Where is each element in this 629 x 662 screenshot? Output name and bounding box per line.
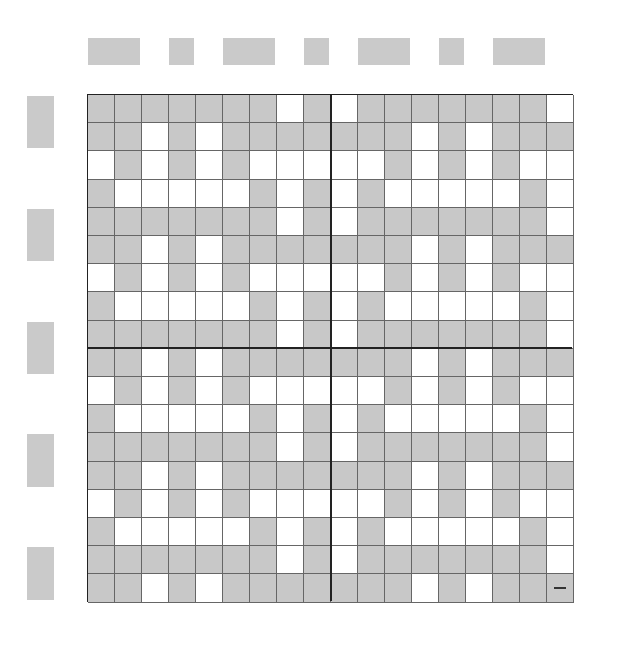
grid-cell-r12-c16 bbox=[142, 264, 169, 292]
grid-cell-r10-c13 bbox=[223, 321, 250, 349]
grid-cell-r7-c5 bbox=[439, 405, 466, 433]
grid-cell-r3-c12 bbox=[250, 518, 277, 546]
grid-cell-r13-c7 bbox=[385, 236, 412, 264]
grid-cell-r13-c15 bbox=[169, 236, 196, 264]
grid-cell-r2-c8 bbox=[358, 546, 385, 574]
grid-cell-r4-c9 bbox=[331, 490, 358, 518]
grid-cell-r8-c4 bbox=[466, 377, 493, 405]
grid-cell-r14-c2 bbox=[520, 208, 547, 236]
grid-cell-r14-c3 bbox=[493, 208, 520, 236]
grid-cell-r15-c11 bbox=[277, 180, 304, 208]
grid-cell-r6-c3 bbox=[493, 433, 520, 461]
grid-cell-r14-c9 bbox=[331, 208, 358, 236]
grid-cell-r4-c4 bbox=[466, 490, 493, 518]
grid-cell-r4-c5 bbox=[439, 490, 466, 518]
grid-cell-r13-c16 bbox=[142, 236, 169, 264]
grid-cell-r10-c4 bbox=[466, 321, 493, 349]
grid-cell-r7-c18 bbox=[88, 405, 115, 433]
grid-cell-r8-c13 bbox=[223, 377, 250, 405]
column-group-B bbox=[546, 38, 573, 65]
grid-cell-r11-c5 bbox=[439, 292, 466, 320]
grid-cell-r9-c5 bbox=[439, 349, 466, 377]
grid-cell-r15-c5 bbox=[439, 180, 466, 208]
grid-cell-r8-c15 bbox=[169, 377, 196, 405]
row-group-A bbox=[27, 235, 54, 263]
grid-cell-r5-c14 bbox=[196, 462, 223, 490]
grid-cell-r16-c16 bbox=[142, 151, 169, 179]
grid-cell-r18-c11 bbox=[277, 95, 304, 123]
grid-cell-r1-c12 bbox=[250, 574, 277, 602]
row-group-A bbox=[27, 432, 54, 460]
column-group-A bbox=[357, 38, 384, 65]
grid-cell-r17-c16 bbox=[142, 123, 169, 151]
grid-cell-r14-c4 bbox=[466, 208, 493, 236]
grid-cell-r14-c17 bbox=[115, 208, 142, 236]
grid-cell-r5-c16 bbox=[142, 462, 169, 490]
grid-cell-r6-c6 bbox=[412, 433, 439, 461]
grid-cell-r11-c12 bbox=[250, 292, 277, 320]
grid-cell-r1-c5 bbox=[439, 574, 466, 602]
grid-cell-r12-c7 bbox=[385, 264, 412, 292]
grid-cell-r18-c7 bbox=[385, 95, 412, 123]
grid-cell-r13-c5 bbox=[439, 236, 466, 264]
grid-cell-r15-c15 bbox=[169, 180, 196, 208]
grid-cell-r1-c10 bbox=[304, 574, 331, 602]
grid-cell-r1-c14 bbox=[196, 574, 223, 602]
row-group-B bbox=[27, 489, 54, 517]
grid-cell-r9-c4 bbox=[466, 349, 493, 377]
grid-cell-r17-c6 bbox=[412, 123, 439, 151]
grid-cell-r8-c5 bbox=[439, 377, 466, 405]
grid-cell-r8-c17 bbox=[115, 377, 142, 405]
grid-cell-r18-c3 bbox=[493, 95, 520, 123]
grid-cell-r3-c15 bbox=[169, 518, 196, 546]
grid-cell-r5-c18 bbox=[88, 462, 115, 490]
grid-cell-r15-c3 bbox=[493, 180, 520, 208]
grid-cell-r4-c13 bbox=[223, 490, 250, 518]
grid-cell-r8-c12 bbox=[250, 377, 277, 405]
grid-cell-r2-c17 bbox=[115, 546, 142, 574]
grid-cell-r5-c12 bbox=[250, 462, 277, 490]
grid-cell-r14-c15 bbox=[169, 208, 196, 236]
grid-cell-r17-c2 bbox=[520, 123, 547, 151]
grid-cell-r12-c1 bbox=[547, 264, 574, 292]
grid-cell-r2-c4 bbox=[466, 546, 493, 574]
grid-cell-r3-c13 bbox=[223, 518, 250, 546]
grid-cell-r17-c13 bbox=[223, 123, 250, 151]
grid-cell-r6-c9 bbox=[331, 433, 358, 461]
grid-cell-r15-c9 bbox=[331, 180, 358, 208]
grid-cell-r10-c9 bbox=[331, 321, 358, 349]
grid-cell-r7-c16 bbox=[142, 405, 169, 433]
grid-cell-r6-c16 bbox=[142, 433, 169, 461]
grid-cell-r16-c4 bbox=[466, 151, 493, 179]
row-group-B bbox=[27, 404, 54, 432]
grid-cell-r17-c15 bbox=[169, 123, 196, 151]
grid-cell-r4-c15 bbox=[169, 490, 196, 518]
grid-cell-r15-c4 bbox=[466, 180, 493, 208]
grid-cell-r11-c3 bbox=[493, 292, 520, 320]
row-group-A bbox=[27, 94, 54, 122]
grid-cell-r2-c18 bbox=[88, 546, 115, 574]
pattern-grid bbox=[87, 94, 573, 602]
grid-cell-r1-c17 bbox=[115, 574, 142, 602]
grid-cell-r16-c17 bbox=[115, 151, 142, 179]
row-group-A bbox=[27, 320, 54, 348]
grid-cell-r5-c4 bbox=[466, 462, 493, 490]
grid-cell-r13-c6 bbox=[412, 236, 439, 264]
dash-mark-icon bbox=[554, 587, 566, 589]
grid-cell-r1-c4 bbox=[466, 574, 493, 602]
grid-cell-r10-c11 bbox=[277, 321, 304, 349]
grid-cell-r9-c1 bbox=[547, 349, 574, 377]
grid-cell-r7-c1 bbox=[547, 405, 574, 433]
grid-cell-r11-c17 bbox=[115, 292, 142, 320]
grid-cell-r9-c8 bbox=[358, 349, 385, 377]
grid-cell-r15-c18 bbox=[88, 180, 115, 208]
grid-cell-r16-c14 bbox=[196, 151, 223, 179]
grid-cell-r18-c2 bbox=[520, 95, 547, 123]
grid-cell-r10-c6 bbox=[412, 321, 439, 349]
grid-cell-r17-c5 bbox=[439, 123, 466, 151]
grid-cell-r13-c2 bbox=[520, 236, 547, 264]
grid-cell-r11-c18 bbox=[88, 292, 115, 320]
grid-cell-r12-c8 bbox=[358, 264, 385, 292]
column-group-A bbox=[87, 38, 114, 65]
grid-cell-r3-c6 bbox=[412, 518, 439, 546]
